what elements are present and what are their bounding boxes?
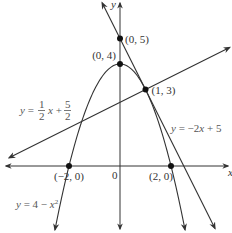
line2-label: y = 1 2 x + 5 2: [19, 98, 71, 122]
svg-text:5: 5: [65, 98, 71, 110]
svg-text:2: 2: [39, 110, 45, 122]
point-marker: [143, 87, 149, 93]
svg-text:1: 1: [39, 98, 45, 110]
line1-label: y = −2x + 5: [170, 122, 222, 134]
origin-label: 0: [112, 169, 118, 181]
y-axis-label: y: [110, 0, 116, 10]
parabola-label: y = 4 − x2: [15, 198, 59, 210]
x-axis-label: x: [227, 166, 232, 178]
point-label: (0, 5): [125, 33, 149, 46]
parabola-label-rest: = 4 −: [21, 198, 50, 210]
point-marker: [117, 36, 123, 42]
point-label: (1, 3): [152, 84, 176, 97]
point-label: (0, 4): [92, 49, 116, 62]
point-label: (−2, 0): [54, 170, 84, 183]
svg-text:y =: y =: [19, 104, 34, 116]
point-marker: [117, 61, 123, 67]
svg-text:x +: x +: [47, 104, 62, 116]
parabola-label-sup: 2: [55, 198, 59, 206]
marked-points: (0, 5)(0, 4)(1, 3)(−2, 0)(2, 0): [54, 33, 176, 184]
svg-text:2: 2: [65, 110, 71, 122]
chart-canvas: x y 0 (0, 5)(0, 4)(1, 3)(−2, 0)(2, 0) y …: [0, 0, 232, 233]
chart-figure: x y 0 (0, 5)(0, 4)(1, 3)(−2, 0)(2, 0) y …: [0, 0, 232, 233]
point-marker: [168, 163, 174, 169]
point-label: (2, 0): [149, 170, 173, 183]
point-marker: [66, 163, 72, 169]
